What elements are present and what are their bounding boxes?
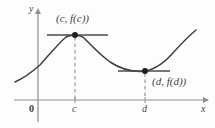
- label-point-d: (d, f(d)): [152, 76, 186, 87]
- x-axis-label: x: [201, 104, 205, 114]
- y-axis-arrow-icon: [35, 8, 41, 14]
- tick-label-c: c: [72, 104, 76, 114]
- label-point-c: (c, f(c)): [56, 13, 89, 24]
- point-local-maximum: [72, 32, 78, 38]
- y-axis-label: y: [29, 4, 33, 14]
- calculus-figure: (c, f(c)) (d, f(d)) y x 0 c d: [0, 0, 215, 128]
- origin-label: 0: [29, 104, 34, 114]
- point-local-minimum: [142, 68, 148, 74]
- tick-label-d: d: [142, 104, 147, 114]
